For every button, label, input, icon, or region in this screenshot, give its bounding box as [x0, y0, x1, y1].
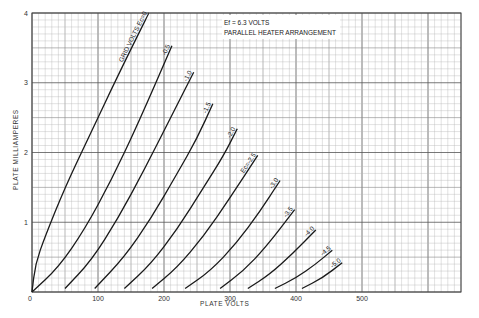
y-axis-label: PLATE MILLIAMPERES	[12, 109, 19, 190]
y-tick-label: 2	[24, 149, 28, 156]
annotation-heater-arrangement: PARALLEL HEATER ARRANGEMENT	[224, 29, 336, 36]
y-tick-label: 4	[24, 10, 28, 17]
x-tick-label: 400	[290, 295, 302, 302]
annotation-heater-volts: Ef = 6.3 VOLTS	[224, 19, 270, 26]
plate-characteristics-chart: Ef = 6.3 VOLTS PARALLEL HEATER ARRANGEME…	[0, 0, 479, 318]
chart-grid	[32, 13, 461, 292]
y-tick-label: 1	[24, 219, 28, 226]
x-tick-label: 100	[92, 295, 104, 302]
x-tick-label: 0	[28, 295, 32, 302]
x-tick-label: 200	[158, 295, 170, 302]
x-tick-label: 500	[356, 295, 368, 302]
y-tick-label: 3	[24, 79, 28, 86]
x-axis-label: PLATE VOLTS	[200, 300, 249, 307]
